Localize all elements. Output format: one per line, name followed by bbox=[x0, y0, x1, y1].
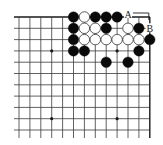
black-stone bbox=[90, 12, 101, 23]
white-stone bbox=[123, 23, 134, 34]
white-stone bbox=[90, 23, 101, 34]
white-stone bbox=[134, 34, 145, 45]
black-stone bbox=[68, 34, 79, 45]
black-stone bbox=[145, 34, 156, 45]
white-stone bbox=[90, 34, 101, 45]
stones bbox=[68, 12, 155, 68]
black-stone bbox=[101, 57, 112, 67]
black-stone bbox=[112, 12, 123, 23]
go-board-diagram: AB bbox=[0, 0, 163, 145]
star-point bbox=[116, 49, 119, 52]
white-stone bbox=[101, 34, 112, 45]
white-stone bbox=[123, 34, 134, 45]
star-point bbox=[116, 117, 119, 120]
go-board: AB bbox=[0, 0, 163, 145]
black-stone bbox=[68, 46, 79, 57]
black-stone bbox=[79, 46, 90, 57]
white-stone bbox=[79, 23, 90, 34]
star-point bbox=[50, 49, 53, 52]
black-stone bbox=[68, 12, 79, 23]
black-stone bbox=[101, 23, 112, 34]
point-label-a: A bbox=[124, 9, 132, 20]
black-stone bbox=[134, 23, 145, 34]
white-stone bbox=[79, 34, 90, 45]
star-point bbox=[50, 117, 53, 120]
white-stone bbox=[112, 34, 123, 45]
black-stone bbox=[123, 57, 134, 67]
white-stone bbox=[79, 12, 90, 23]
point-label-b: B bbox=[146, 23, 153, 34]
black-stone bbox=[68, 23, 79, 34]
black-stone bbox=[134, 46, 145, 57]
black-stone bbox=[101, 12, 112, 23]
